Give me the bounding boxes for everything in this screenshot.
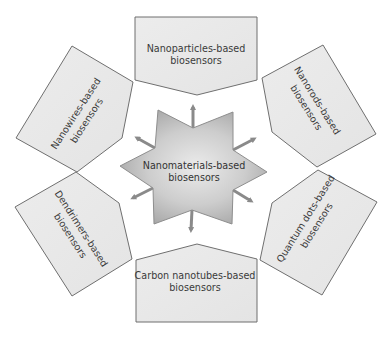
- node-nanorods: Nanorods-based biosensors: [262, 45, 376, 167]
- node-label-line2: biosensors: [170, 55, 221, 66]
- arrow-upper-left-icon: [137, 138, 155, 148]
- node-dendrimers: Dendrimers-based biosensors: [15, 172, 132, 296]
- center-label-line1: Nanomaterials-based: [143, 160, 245, 171]
- arrow-upper-right-icon: [233, 139, 254, 150]
- node-carbon-nanotubes: Carbon nanotubes-based biosensors: [135, 244, 257, 322]
- node-nanoparticles: Nanoparticles-based biosensors: [135, 17, 257, 95]
- node-quantum-dots: Quantum dots-based biosensors: [260, 170, 377, 295]
- node-label-line1: Carbon nanotubes-based: [135, 270, 256, 281]
- center-label-line2: biosensors: [168, 172, 219, 183]
- arrow-down-icon: [191, 210, 192, 230]
- arrow-lower-left-icon: [133, 188, 153, 198]
- node-nanowires: Nanowires-based biosensors: [16, 46, 133, 172]
- nanomaterials-biosensors-diagram: Nanoparticles-based biosensors Nanorods-…: [0, 0, 391, 338]
- arrow-lower-right-icon: [233, 190, 251, 201]
- node-label-line1: Nanoparticles-based: [147, 43, 246, 54]
- node-label-line2: biosensors: [169, 282, 220, 293]
